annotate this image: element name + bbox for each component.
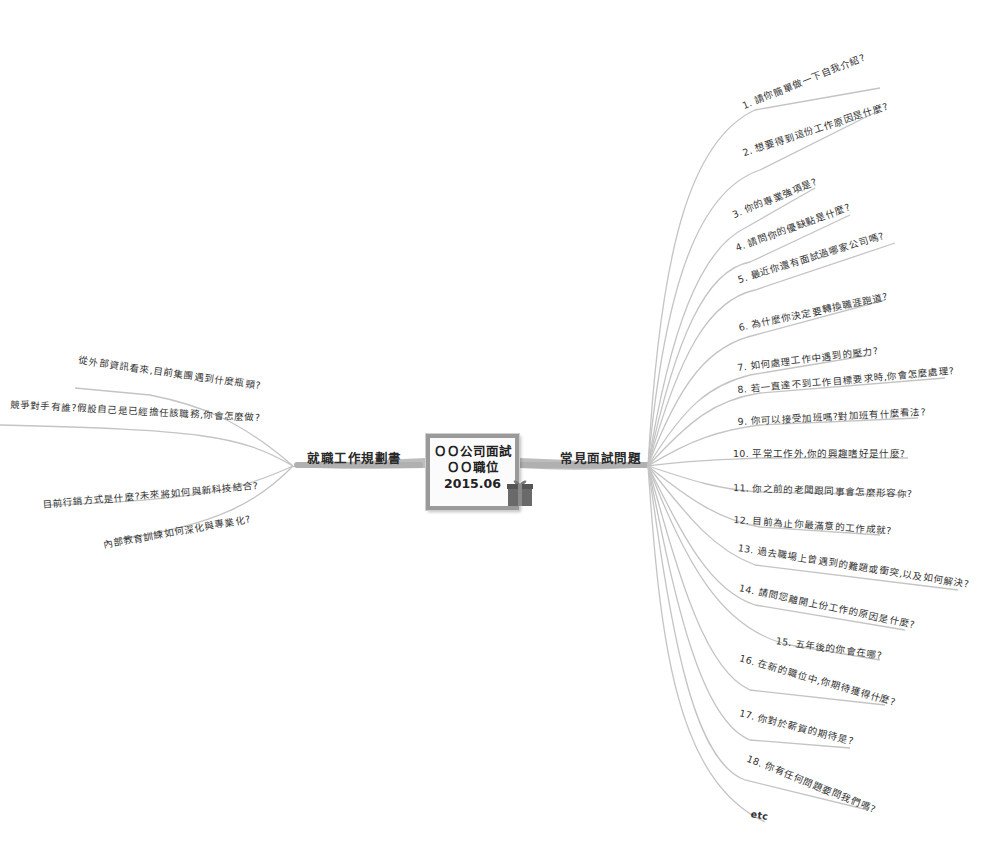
gift-icon — [505, 478, 535, 508]
central-topic-line3: 2015.06 — [430, 476, 515, 492]
topic-career-plan[interactable]: 就職工作規劃書 — [307, 448, 402, 467]
right-leaf-10[interactable]: 10. 平常工作外,你的興趣嗜好是什麼? — [733, 446, 905, 460]
mind-map-connectors — [0, 0, 997, 850]
central-topic-line2: ＯＯ職位 — [430, 460, 515, 476]
mind-map-canvas: ＯＯ公司面試 ＯＯ職位 2015.06 就職工作規劃書 常見面試問題 從外部資訊… — [0, 0, 997, 850]
topic-common-questions[interactable]: 常見面試問題 — [560, 448, 641, 467]
central-topic-line1: ＯＯ公司面試 — [430, 444, 515, 460]
